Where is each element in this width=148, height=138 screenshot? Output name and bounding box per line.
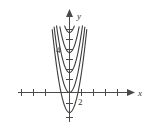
y-axis-label: y (76, 11, 81, 21)
x-tick-label-2: 2 (78, 97, 83, 107)
x-axis (18, 89, 135, 96)
arrow-up-icon (66, 9, 73, 17)
arrow-right-icon (127, 89, 135, 96)
parabola-family-figure: y x 4 2 (0, 0, 148, 138)
y-tick-label-4: 4 (56, 45, 61, 55)
x-axis-label: x (137, 88, 142, 98)
y-axis (66, 9, 73, 122)
